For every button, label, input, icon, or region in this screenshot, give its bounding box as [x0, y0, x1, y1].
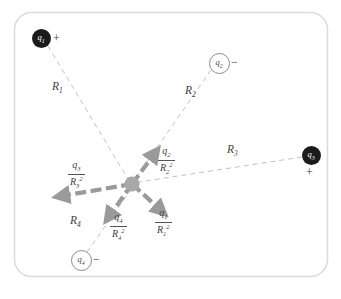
charge-node-q3[interactable]: q3	[302, 146, 321, 165]
force-label-q4-over-R4sq: q4 R42	[110, 212, 127, 242]
field-point-dot	[124, 176, 139, 191]
charge-label-q4: q4	[72, 255, 91, 266]
charge-label-q3: q3	[302, 150, 321, 161]
force-label-q1-over-R1sq: q1 R12	[155, 208, 172, 238]
charge-sign-q3: +	[306, 166, 313, 178]
physics-force-diagram: q1 + q2 − q3 + q4 − R1 R2 R3 R4 q2	[0, 0, 341, 299]
distance-label-R4: R4	[70, 215, 81, 229]
charge-label-q1: q1	[32, 33, 51, 44]
force-numerator-q3: q3	[68, 160, 85, 173]
charge-node-q2[interactable]: q2	[209, 53, 230, 74]
charge-node-q4[interactable]: q4	[71, 250, 92, 271]
force-denominator-R4sq: R42	[110, 228, 127, 242]
distance-label-R2: R2	[185, 85, 196, 99]
charge-sign-q4: −	[93, 253, 100, 265]
force-numerator-q1: q1	[155, 208, 172, 221]
force-denominator-R3sq: R32	[68, 176, 85, 190]
force-numerator-q2: q2	[158, 146, 175, 159]
force-denominator-R1sq: R12	[155, 224, 172, 238]
force-numerator-q4: q4	[110, 212, 127, 225]
distance-label-R3: R3	[227, 144, 238, 158]
force-label-q2-over-R2sq: q2 R22	[158, 146, 175, 176]
charge-sign-q1: +	[53, 32, 60, 44]
charge-label-q2: q2	[210, 58, 229, 69]
charge-node-q1[interactable]: q1	[32, 29, 51, 48]
force-denominator-R2sq: R22	[158, 162, 175, 176]
distance-label-R1: R1	[52, 81, 63, 95]
charge-sign-q2: −	[231, 56, 238, 68]
distance-line-R1	[48, 46, 128, 179]
force-label-q3-over-R3sq: q3 R32	[68, 160, 85, 190]
